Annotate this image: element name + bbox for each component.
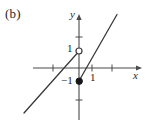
right-line-segment	[80, 15, 117, 80]
graph-figure: (b) y	[0, 0, 145, 135]
x-tick-label-one: 1	[90, 72, 96, 83]
y-tick-label-one: 1	[67, 43, 73, 54]
filled-point-marker	[76, 78, 82, 84]
open-point-marker	[76, 48, 82, 54]
y-tick-label-negative-one: −1	[61, 75, 73, 86]
y-axis-arrow	[76, 14, 81, 20]
x-axis-label: x	[133, 70, 138, 81]
curve-group	[24, 15, 117, 114]
coordinate-plot	[0, 0, 145, 135]
y-axis-label: y	[70, 9, 75, 20]
